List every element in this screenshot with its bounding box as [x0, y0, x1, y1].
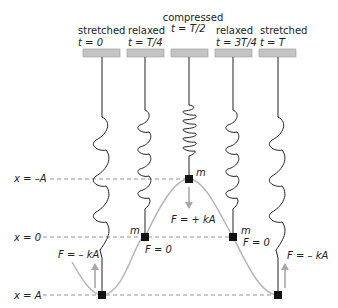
- stage-4-time: t = T: [260, 37, 286, 48]
- stage-3-time: t = 3T/4: [216, 37, 257, 48]
- stage-2-time: t = T/2: [171, 23, 206, 34]
- label-x-neg-A: x = –A: [13, 173, 47, 184]
- shm-diagram: compressed t = T/2 stretched t = 0 relax…: [0, 0, 338, 308]
- mass-label-3: m: [241, 225, 251, 236]
- label-x-zero: x = 0: [13, 232, 41, 243]
- force-label-0: F = – kA: [58, 249, 99, 260]
- mass-label-1: m: [130, 225, 140, 236]
- stage-4-state: stretched: [260, 25, 307, 36]
- mass-1: [141, 233, 149, 241]
- stage-3-state: relaxed: [216, 25, 253, 36]
- stage-1-state: relaxed: [128, 25, 165, 36]
- label-x-pos-A: x = A: [13, 290, 42, 301]
- mass-2: [185, 175, 193, 183]
- mass-label-2: m: [196, 167, 206, 178]
- force-label-1: F = 0: [145, 244, 172, 255]
- stage-1-time: t = T/4: [128, 37, 163, 48]
- stage-2-state: compressed: [163, 12, 224, 23]
- force-label-3: F = 0: [243, 237, 270, 248]
- mass-0: [98, 291, 106, 299]
- stage-0-time: t = 0: [78, 37, 103, 48]
- mass-4: [274, 291, 282, 299]
- mass-3: [229, 233, 237, 241]
- ceiling-supports: [83, 49, 296, 57]
- force-label-4: F = – kA: [287, 250, 328, 261]
- force-label-2: F = + kA: [171, 214, 216, 225]
- stage-0-state: stretched: [78, 25, 125, 36]
